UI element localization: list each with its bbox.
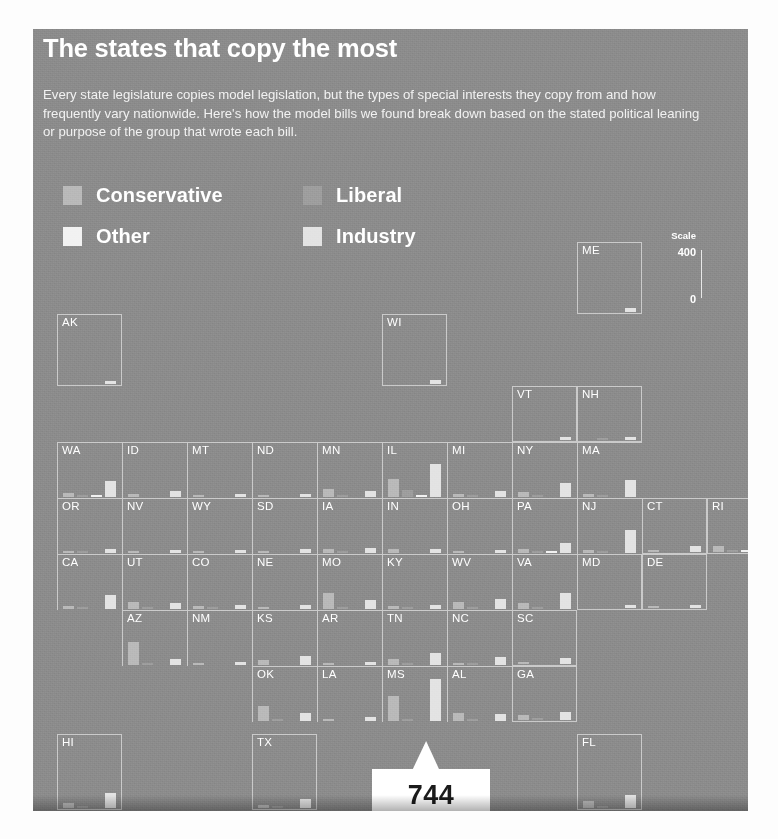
state-bars	[386, 498, 444, 553]
bar-industry	[690, 605, 701, 608]
state-cell-de[interactable]: DE	[642, 554, 707, 610]
state-cell-il[interactable]: IL	[382, 442, 447, 498]
bar-conservative	[258, 495, 269, 498]
bar-other	[416, 495, 427, 498]
state-bars	[451, 554, 509, 609]
state-cell-me[interactable]: ME	[577, 242, 642, 314]
bar-industry	[430, 679, 441, 721]
bar-industry	[430, 549, 441, 553]
bar-industry	[170, 550, 181, 553]
bar-industry	[495, 491, 506, 497]
bar-conservative	[323, 489, 334, 497]
state-cell-ok[interactable]: OK	[252, 666, 317, 722]
state-cell-nm[interactable]: NM	[187, 610, 252, 666]
state-cell-nj[interactable]: NJ	[577, 498, 642, 554]
state-cell-ny[interactable]: NY	[512, 442, 577, 498]
state-bars	[61, 314, 118, 384]
bar-industry	[560, 543, 571, 553]
state-cell-pa[interactable]: PA	[512, 498, 577, 554]
bar-conservative	[648, 550, 659, 553]
state-cell-ms[interactable]: MS	[382, 666, 447, 722]
state-cell-or[interactable]: OR	[57, 498, 122, 554]
bar-industry	[625, 530, 636, 553]
state-cell-mi[interactable]: MI	[447, 442, 512, 498]
state-cell-fl[interactable]: FL	[577, 734, 642, 810]
state-cell-al[interactable]: AL	[447, 666, 512, 722]
bar-industry	[560, 712, 571, 720]
state-bars	[256, 666, 314, 721]
bar-conservative	[518, 492, 529, 497]
state-bars	[386, 314, 443, 384]
state-cell-wa[interactable]: WA	[57, 442, 122, 498]
state-bars	[61, 442, 119, 497]
bar-liberal	[77, 607, 88, 610]
bar-industry	[300, 605, 311, 609]
state-cell-mt[interactable]: MT	[187, 442, 252, 498]
bar-conservative	[128, 494, 139, 497]
state-cell-ga[interactable]: GA	[512, 666, 577, 722]
state-cell-ne[interactable]: NE	[252, 554, 317, 610]
bar-liberal	[402, 719, 413, 722]
state-bars	[256, 610, 314, 665]
state-cell-id[interactable]: ID	[122, 442, 187, 498]
state-cell-ky[interactable]: KY	[382, 554, 447, 610]
state-bars	[516, 386, 573, 440]
state-cell-az[interactable]: AZ	[122, 610, 187, 666]
bar-industry	[300, 494, 311, 497]
bar-industry	[430, 464, 441, 497]
bar-liberal	[402, 490, 413, 497]
bar-industry	[430, 653, 441, 665]
state-cell-ri[interactable]: RI	[707, 498, 748, 554]
bar-industry	[690, 546, 701, 553]
bar-conservative	[648, 606, 659, 609]
state-cell-md[interactable]: MD	[577, 554, 642, 610]
state-cell-nv[interactable]: NV	[122, 498, 187, 554]
state-cell-va[interactable]: VA	[512, 554, 577, 610]
state-bars	[321, 442, 379, 497]
bar-conservative	[453, 551, 464, 554]
state-cell-wv[interactable]: WV	[447, 554, 512, 610]
state-bars	[126, 442, 184, 497]
state-cell-ca[interactable]: CA	[57, 554, 122, 610]
state-cell-ak[interactable]: AK	[57, 314, 122, 386]
state-cell-sc[interactable]: SC	[512, 610, 577, 666]
state-cell-wy[interactable]: WY	[187, 498, 252, 554]
bar-conservative	[388, 659, 399, 665]
state-bars	[321, 610, 379, 665]
state-cell-sd[interactable]: SD	[252, 498, 317, 554]
state-cell-la[interactable]: LA	[317, 666, 382, 722]
bar-liberal	[467, 607, 478, 610]
state-cell-ut[interactable]: UT	[122, 554, 187, 610]
bar-industry	[625, 605, 636, 608]
bar-conservative	[323, 593, 334, 609]
state-cell-mo[interactable]: MO	[317, 554, 382, 610]
bar-conservative	[453, 602, 464, 609]
state-cell-wi[interactable]: WI	[382, 314, 447, 386]
state-cell-mn[interactable]: MN	[317, 442, 382, 498]
bar-conservative	[453, 494, 464, 497]
state-cell-ar[interactable]: AR	[317, 610, 382, 666]
state-cell-tx[interactable]: TX	[252, 734, 317, 810]
bar-conservative	[518, 603, 529, 609]
bar-liberal	[727, 550, 738, 553]
state-cell-vt[interactable]: VT	[512, 386, 577, 442]
bar-liberal	[532, 718, 543, 721]
state-cell-co[interactable]: CO	[187, 554, 252, 610]
state-cell-in[interactable]: IN	[382, 498, 447, 554]
state-cell-ma[interactable]: MA	[577, 442, 642, 498]
bar-liberal	[402, 663, 413, 666]
bar-industry	[625, 480, 636, 497]
state-cell-ks[interactable]: KS	[252, 610, 317, 666]
state-cell-ia[interactable]: IA	[317, 498, 382, 554]
state-cell-nc[interactable]: NC	[447, 610, 512, 666]
state-cell-nd[interactable]: ND	[252, 442, 317, 498]
bar-industry	[235, 605, 246, 609]
state-cell-oh[interactable]: OH	[447, 498, 512, 554]
state-bars	[581, 442, 639, 497]
bar-conservative	[63, 606, 74, 609]
bar-industry	[560, 437, 571, 440]
state-cell-tn[interactable]: TN	[382, 610, 447, 666]
state-cell-ct[interactable]: CT	[642, 498, 707, 554]
state-cell-hi[interactable]: HI	[57, 734, 122, 810]
state-cell-nh[interactable]: NH	[577, 386, 642, 442]
